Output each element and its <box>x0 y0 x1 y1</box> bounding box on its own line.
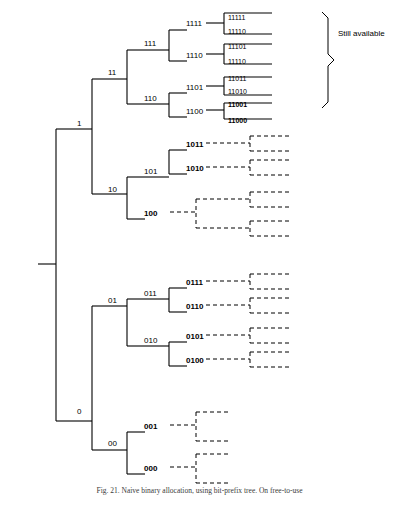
node_labels-n00: 00 <box>108 440 117 448</box>
tree-solid-edges <box>38 13 272 474</box>
node_labels-n1: 1 <box>77 120 81 128</box>
leaf_labels-l11110: 11110 <box>228 28 246 35</box>
node_labels-n000: 000 <box>144 465 157 473</box>
leaf_labels-l11110b: 11110 <box>228 58 246 65</box>
node_labels-n0100: 0100 <box>186 357 204 365</box>
node_labels-n110: 110 <box>144 95 157 103</box>
node_labels-n1011: 1011 <box>186 141 203 149</box>
node_labels-n001: 001 <box>144 423 157 431</box>
node_labels-n0: 0 <box>77 408 81 416</box>
still-available-bracket <box>322 12 334 108</box>
leaf_labels-l11011: 11011 <box>228 75 246 82</box>
leaf_labels-l11000: 11000 <box>228 117 247 124</box>
leaf_labels-l11101: 11101 <box>228 43 246 50</box>
leaf_labels-l11001: 11001 <box>228 101 247 108</box>
node_labels-n1110: 1110 <box>186 52 203 60</box>
node_labels-n011: 011 <box>144 290 157 298</box>
node_labels-n11: 11 <box>108 69 116 77</box>
node_labels-n101: 101 <box>144 168 157 176</box>
node_labels-n0101: 0101 <box>186 333 204 341</box>
leaf_labels-l11010: 11010 <box>228 88 247 95</box>
still-available-annotation: Still available <box>338 30 385 38</box>
binary-prefix-tree-diagram <box>0 0 399 507</box>
node_labels-n010: 010 <box>144 337 157 345</box>
node_labels-n1010: 1010 <box>186 165 204 173</box>
node_labels-n1100: 1100 <box>186 108 203 116</box>
node_labels-n0110: 0110 <box>186 303 203 311</box>
node_labels-n111: 111 <box>144 40 156 48</box>
node_labels-n100: 100 <box>144 210 157 218</box>
node_labels-n01: 01 <box>108 297 117 305</box>
node_labels-n1101: 1101 <box>186 84 203 92</box>
leaf_labels-l11111: 11111 <box>228 14 245 21</box>
node_labels-n0111: 0111 <box>186 279 203 287</box>
node_labels-n1111: 1111 <box>186 20 202 28</box>
node_labels-n10: 10 <box>108 186 117 194</box>
figure-caption: Fig. 21. Naive binary allocation, using … <box>0 486 399 495</box>
